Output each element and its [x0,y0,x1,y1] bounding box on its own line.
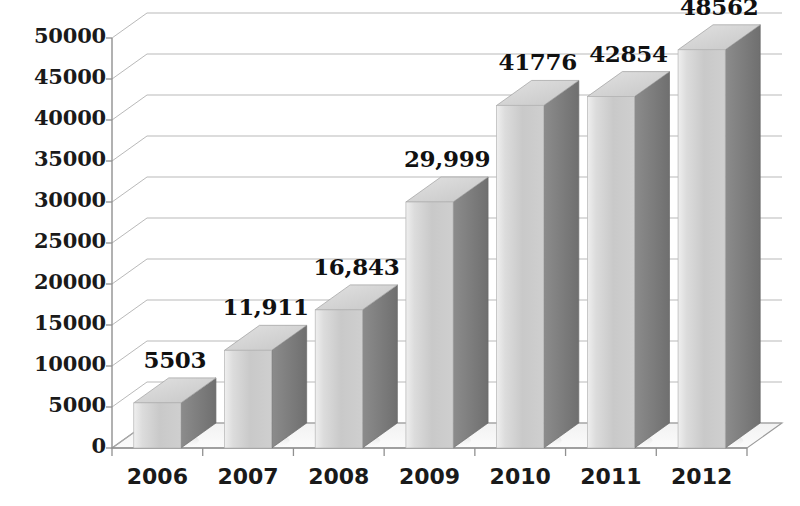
bar-value-label: 16,843 [286,253,426,280]
data-labels: 550311,91116,84329,999417764285448562 [0,0,800,506]
bar-chart: 0500010000150002000025000300003500040000… [0,0,800,506]
bar-value-label: 11,911 [196,293,336,320]
bar-value-label: 48562 [649,0,789,20]
bar-value-label: 29,999 [377,145,517,172]
bar-value-label: 42854 [558,40,698,67]
bar-value-label: 5503 [105,346,245,373]
